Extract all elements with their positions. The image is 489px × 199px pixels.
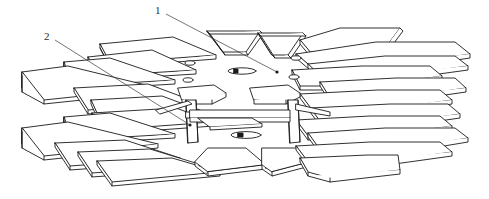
leader-dot-2 <box>188 123 191 126</box>
callout-label-1: 1 <box>155 5 161 16</box>
hub-pin-right-lower <box>289 75 299 79</box>
hub-inner-ring <box>198 118 262 130</box>
hub-pin-left-upper <box>185 61 195 65</box>
hub-pin-right-upper <box>291 56 301 60</box>
line-drawing-canvas <box>0 0 489 199</box>
technical-figure: 1 2 <box>0 0 489 199</box>
hub-pin-left-lower <box>183 78 193 82</box>
leader-dot-1 <box>275 70 278 73</box>
wedge-top-left <box>207 31 263 55</box>
hub-pin-center-upper <box>228 68 256 74</box>
plate-bottom-right-4 <box>300 155 400 182</box>
assembly-geometry <box>22 28 470 186</box>
hub-pin-center-lower <box>231 132 261 139</box>
callout-label-2: 2 <box>44 31 50 42</box>
